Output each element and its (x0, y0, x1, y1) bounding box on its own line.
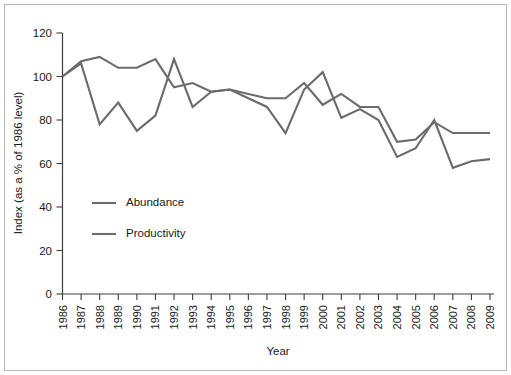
x-tick-label: 1998 (280, 305, 292, 329)
x-tick-label: 2005 (410, 305, 422, 329)
x-tick-label: 2006 (428, 305, 440, 329)
x-tick-label: 1992 (168, 305, 180, 329)
legend: AbundanceProductivity (92, 196, 186, 239)
series-line-productivity (63, 59, 491, 168)
x-tick-label: 1993 (187, 305, 199, 329)
x-tick-label: 2009 (484, 305, 496, 329)
legend-label-abundance: Abundance (126, 196, 184, 208)
chart-figure: 020406080100120 198619871988198919901991… (0, 0, 511, 375)
y-tick-label: 100 (33, 71, 52, 83)
x-tick-label: 1994 (205, 305, 217, 329)
x-tick-label: 2002 (354, 305, 366, 329)
x-tick-label: 2003 (372, 305, 384, 329)
x-tick-label: 1990 (131, 305, 143, 329)
y-tick-label: 80 (39, 114, 52, 126)
x-tick-label: 1989 (112, 305, 124, 329)
x-tick-label: 1986 (57, 305, 69, 329)
legend-label-productivity: Productivity (126, 227, 186, 239)
x-tick-label: 1988 (94, 305, 106, 329)
x-tick-label: 1995 (224, 305, 236, 329)
y-axis-title: Index (as a % of 1986 level) (12, 92, 24, 235)
y-tick-label: 60 (39, 158, 52, 170)
x-tick-label: 2004 (391, 305, 403, 329)
x-tick-label: 2001 (335, 305, 347, 329)
y-tick-label: 0 (46, 288, 52, 300)
x-tick-label: 2000 (317, 305, 329, 329)
series-group (63, 57, 491, 168)
series-line-abundance (63, 57, 491, 142)
y-tick-label: 120 (33, 27, 52, 39)
x-tick-label: 2007 (447, 305, 459, 329)
x-tick-label: 1999 (298, 305, 310, 329)
x-tick-label: 1997 (261, 305, 273, 329)
x-tick-label: 1996 (242, 305, 254, 329)
y-tick-label: 40 (39, 201, 52, 213)
axis-group (63, 33, 495, 294)
x-axis-title: Year (266, 345, 289, 357)
y-tick-label: 20 (39, 245, 52, 257)
x-tick-label: 2008 (465, 305, 477, 329)
x-tick-label: 1987 (75, 305, 87, 329)
x-tick-group: 1986198719881989199019911992199319941995… (57, 294, 497, 329)
line-chart: 020406080100120 198619871988198919901991… (0, 0, 511, 375)
x-tick-label: 1991 (149, 305, 161, 329)
y-tick-group: 020406080100120 (33, 27, 63, 300)
